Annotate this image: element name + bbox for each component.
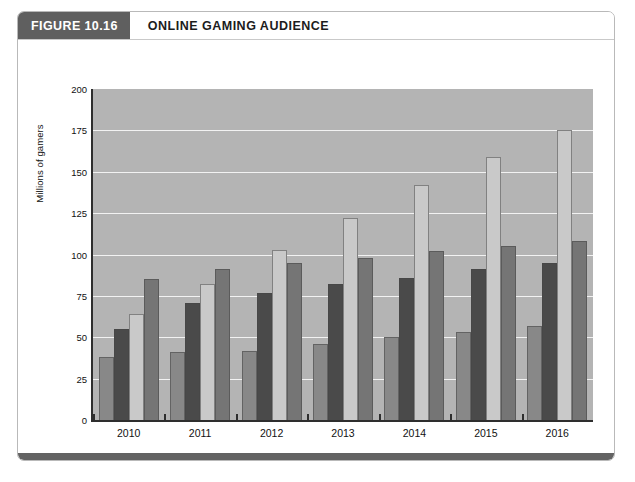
x-axis-label-2012: 2012 xyxy=(236,427,307,439)
bar-casual-2011 xyxy=(215,269,230,420)
bar-console-2014 xyxy=(384,337,399,420)
figure-header: FIGURE 10.16 ONLINE GAMING AUDIENCE xyxy=(18,12,614,40)
figure-card: FIGURE 10.16 ONLINE GAMING AUDIENCE Mill… xyxy=(17,11,615,461)
y-axis-tick-175: 175 xyxy=(71,125,87,136)
figure-title: ONLINE GAMING AUDIENCE xyxy=(130,12,614,39)
bar-social-2011 xyxy=(185,303,200,421)
bar-mobile-2010 xyxy=(129,314,144,420)
y-axis-tick-125: 125 xyxy=(71,208,87,219)
y-axis-tick-25: 25 xyxy=(76,373,87,384)
bar-console-2012 xyxy=(242,351,257,421)
bar-console-2015 xyxy=(456,332,471,420)
x-axis-label-2010: 2010 xyxy=(93,427,164,439)
bar-group-2012 xyxy=(236,89,307,420)
bar-casual-2010 xyxy=(144,279,159,420)
x-axis-tick-labels: 2010201120122013201420152016 xyxy=(93,427,593,439)
x-axis-tickmark xyxy=(307,414,309,421)
bar-group-2013 xyxy=(307,89,378,420)
x-axis-label-2014: 2014 xyxy=(379,427,450,439)
bar-social-2013 xyxy=(328,284,343,420)
bar-social-2015 xyxy=(471,269,486,420)
bar-casual-2015 xyxy=(501,246,516,420)
y-axis-tick-50: 50 xyxy=(76,332,87,343)
bar-console-2011 xyxy=(170,352,185,420)
bar-group-2011 xyxy=(164,89,235,420)
figure-number-badge: FIGURE 10.16 xyxy=(18,12,130,39)
x-axis-label-2011: 2011 xyxy=(164,427,235,439)
bar-casual-2013 xyxy=(358,258,373,420)
y-axis-tick-0: 0 xyxy=(82,415,87,426)
y-axis-tick-150: 150 xyxy=(71,166,87,177)
plot-area xyxy=(91,89,593,422)
bar-mobile-2015 xyxy=(486,157,501,420)
bar-console-2010 xyxy=(99,357,114,420)
bar-mobile-2014 xyxy=(414,185,429,420)
x-axis-tickmark xyxy=(93,414,95,421)
x-axis-label-2016: 2016 xyxy=(522,427,593,439)
bar-group-2014 xyxy=(379,89,450,420)
x-axis-label-2015: 2015 xyxy=(450,427,521,439)
bar-social-2016 xyxy=(542,263,557,420)
bar-mobile-2011 xyxy=(200,284,215,420)
y-axis-tick-100: 100 xyxy=(71,249,87,260)
bottom-divider-rule xyxy=(18,453,614,461)
x-axis-tickmark xyxy=(379,414,381,421)
y-axis-tick-200: 200 xyxy=(71,84,87,95)
bar-group-2010 xyxy=(93,89,164,420)
bar-mobile-2013 xyxy=(343,218,358,420)
bar-social-2010 xyxy=(114,329,129,420)
bar-group-2016 xyxy=(522,89,593,420)
bar-mobile-2012 xyxy=(272,250,287,420)
bar-social-2012 xyxy=(257,293,272,420)
y-axis-tick-labels: 2001751501251007550250 xyxy=(56,89,87,420)
x-axis-tickmark xyxy=(164,414,166,421)
bar-casual-2014 xyxy=(429,251,444,420)
bar-console-2013 xyxy=(313,344,328,420)
x-axis-tickmark xyxy=(236,414,238,421)
bar-mobile-2016 xyxy=(557,130,572,420)
bar-console-2016 xyxy=(527,326,542,420)
bar-casual-2012 xyxy=(287,263,302,420)
bar-casual-2016 xyxy=(572,241,587,420)
bars-layer xyxy=(93,89,593,420)
bar-social-2014 xyxy=(399,278,414,420)
x-axis-label-2013: 2013 xyxy=(307,427,378,439)
bar-group-2015 xyxy=(450,89,521,420)
y-axis-title: Millions of gamers xyxy=(34,104,45,224)
x-axis-tickmark xyxy=(450,414,452,421)
x-axis-tickmark xyxy=(522,414,524,421)
chart-body: Millions of gamers 200175150125100755025… xyxy=(18,40,614,461)
y-axis-tick-75: 75 xyxy=(76,290,87,301)
